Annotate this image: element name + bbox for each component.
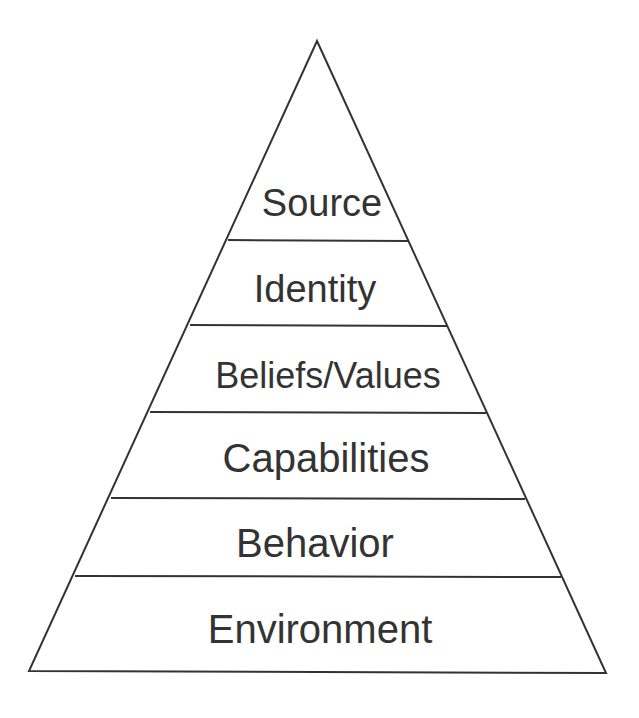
level-environment: Environment <box>208 607 433 651</box>
divider-beliefs-capabilities <box>150 412 486 413</box>
divider-source-identity <box>228 240 409 241</box>
level-capabilities: Capabilities <box>223 436 430 480</box>
logical-levels-pyramid: Source Identity Beliefs/Values Capabilit… <box>0 0 639 718</box>
divider-capabilities-behavior <box>111 498 525 499</box>
level-source: Source <box>262 182 382 224</box>
divider-identity-beliefs <box>190 325 447 326</box>
level-identity: Identity <box>254 268 377 310</box>
level-beliefs-values: Beliefs/Values <box>215 355 440 396</box>
divider-behavior-environment <box>75 576 561 577</box>
level-behavior: Behavior <box>236 521 394 565</box>
